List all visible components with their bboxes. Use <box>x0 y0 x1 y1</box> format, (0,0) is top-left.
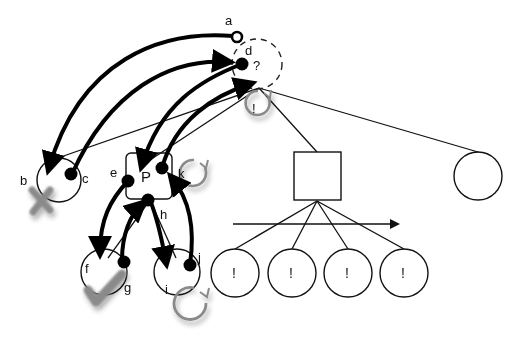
label-d: d <box>245 43 252 58</box>
port-e[interactable] <box>122 175 135 188</box>
diagram-canvas: a d ? ! b c e P k h f g i j ! ! ! ! <box>0 0 521 338</box>
port-h[interactable] <box>142 194 155 207</box>
seq-child-2-label: ! <box>289 265 293 281</box>
label-a: a <box>225 13 233 28</box>
edge-seq-to-child4 <box>317 201 404 249</box>
seq-child-4-label: ! <box>401 265 405 281</box>
edge-P-to-f <box>108 200 150 258</box>
arrow-d-to-e <box>142 64 242 165</box>
loop-arrow-icon-i <box>174 287 209 319</box>
label-f: f <box>85 261 89 276</box>
check-mark-icon <box>88 274 122 302</box>
labels: a d ? ! b c e P k h f g i j ! ! ! ! <box>20 13 405 297</box>
port-j[interactable] <box>184 259 197 272</box>
label-h: h <box>160 207 167 222</box>
label-g: g <box>124 280 131 295</box>
label-e: e <box>110 165 117 180</box>
seq-child-3-label: ! <box>345 265 349 281</box>
port-k[interactable] <box>156 162 169 175</box>
arrow-a-to-b <box>49 35 233 168</box>
loop-arrow-icon-root <box>246 90 271 115</box>
edge-seq-to-child3 <box>317 201 348 249</box>
root-mark: ! <box>252 101 256 116</box>
label-question: ? <box>253 58 260 73</box>
arrow-c-to-d <box>72 62 228 174</box>
port-a[interactable] <box>232 32 242 42</box>
label-j: j <box>197 250 201 265</box>
label-i: i <box>165 282 168 297</box>
sequence-node[interactable] <box>294 152 341 200</box>
edge-root-to-right-leaf <box>259 88 478 152</box>
arrow-j-to-k <box>172 178 192 264</box>
dataflow-arrows <box>49 35 250 264</box>
ports <box>65 32 249 272</box>
edge-root-to-P <box>150 88 259 160</box>
arrow-g-to-h <box>122 204 142 260</box>
label-b: b <box>20 173 27 188</box>
port-g[interactable] <box>118 256 131 269</box>
port-d[interactable] <box>236 58 249 71</box>
seq-child-1-label: ! <box>232 265 236 281</box>
port-c[interactable] <box>65 168 78 181</box>
arrow-k-to-root <box>162 84 250 168</box>
nodes <box>37 39 502 297</box>
label-k: k <box>178 166 185 181</box>
right-leaf-node[interactable] <box>454 152 502 200</box>
label-c: c <box>82 171 89 186</box>
label-P: P <box>141 168 151 185</box>
